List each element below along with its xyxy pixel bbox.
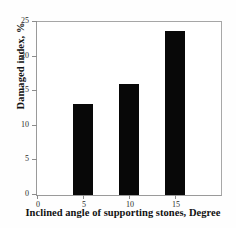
y-tick: 5 xyxy=(32,159,37,160)
bar-chart-figure: Damaged index, % 0510152025 051015 Incli… xyxy=(0,0,236,228)
y-tick: 10 xyxy=(32,125,37,126)
x-axis-title: Inclined angle of supporting stones, Deg… xyxy=(18,207,228,218)
y-tick-label: 5 xyxy=(25,154,29,163)
y-tick-label: 10 xyxy=(21,120,29,129)
bar xyxy=(119,84,139,195)
y-tick: 25 xyxy=(32,21,37,22)
y-tick: 20 xyxy=(32,56,37,57)
y-tick: 15 xyxy=(32,90,37,91)
y-tick-label: 20 xyxy=(21,51,29,60)
y-tick-label: 15 xyxy=(21,85,29,94)
bar xyxy=(165,31,185,195)
bar xyxy=(73,104,93,195)
x-tick: 0 xyxy=(37,195,38,199)
x-tick: 10 xyxy=(129,195,130,199)
x-tick: 15 xyxy=(175,195,176,199)
y-tick-label: 0 xyxy=(25,189,29,198)
plot-area: 0510152025 051015 xyxy=(36,21,222,196)
x-tick: 5 xyxy=(83,195,84,199)
y-tick-label: 25 xyxy=(21,16,29,25)
